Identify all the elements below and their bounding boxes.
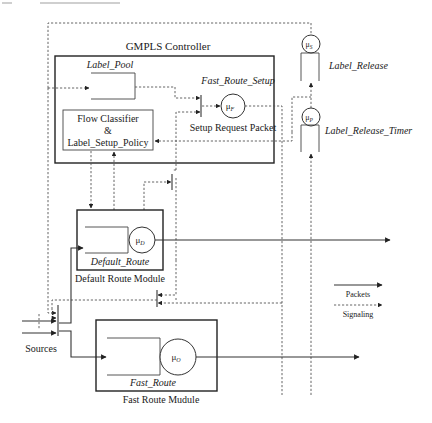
default-route-module: μD Default_Route Default Route Module bbox=[75, 210, 166, 284]
default-route-label: Default_Route bbox=[90, 256, 150, 267]
fast-route-queue bbox=[107, 338, 160, 375]
sources-to-fast-route-link bbox=[59, 331, 106, 357]
label-pool-label: Label_Pool bbox=[86, 59, 134, 70]
legend-packets-label: Packets bbox=[346, 290, 370, 299]
label-pool-to-setup-link bbox=[135, 87, 200, 98]
label-release-label: Label_Release bbox=[328, 60, 388, 71]
gmpls-architecture-diagram: GMPLS Controller Label_Pool Fast_Route_S… bbox=[0, 0, 432, 423]
label-pool-queue bbox=[91, 73, 135, 99]
default-route-module-title: Default Route Module bbox=[75, 273, 166, 284]
setup-request-packet-label: Setup Request Packet bbox=[190, 122, 277, 133]
fast-route-module: μO Fast_Route Fast Route Mudule bbox=[96, 320, 217, 405]
default-route-queue bbox=[85, 227, 128, 253]
gmpls-controller: GMPLS Controller Label_Pool Fast_Route_S… bbox=[55, 40, 292, 170]
label-release-timer-label: Label_Release_Timer bbox=[324, 125, 412, 136]
lower-merge-out bbox=[52, 300, 157, 308]
default-to-merge-link bbox=[144, 182, 171, 210]
fast-route-module-title: Fast Route Mudule bbox=[123, 394, 200, 405]
flow-classifier-line2: & bbox=[104, 125, 112, 136]
legend-signaling-label: Signaling bbox=[343, 310, 374, 319]
page-header bbox=[2, 2, 120, 4]
fast-setup-signal-line bbox=[245, 106, 282, 395]
diagram-canvas: GMPLS Controller Label_Pool Fast_Route_S… bbox=[0, 0, 432, 423]
fast-route-label: Fast_Route bbox=[129, 377, 177, 388]
flow-classifier-line1: Flow Classifier bbox=[77, 113, 139, 124]
flow-classifier-line3: Label_Setup_Policy bbox=[67, 137, 148, 148]
gmpls-controller-title: GMPLS Controller bbox=[126, 40, 211, 52]
legend: Packets Signaling bbox=[334, 285, 382, 319]
sources-to-default-route-link bbox=[59, 248, 83, 323]
fast-route-setup-label: Fast_Route_Setup bbox=[200, 75, 274, 86]
sources-label: Sources bbox=[25, 343, 57, 354]
